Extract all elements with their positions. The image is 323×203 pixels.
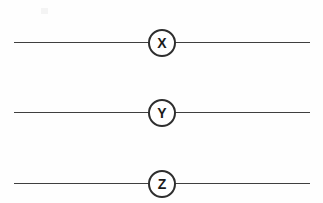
node-label-z: Z	[158, 177, 167, 191]
diagram-row-z: Z	[0, 169, 323, 199]
diagram-row-y: Y	[0, 98, 323, 128]
node-label-y: Y	[157, 106, 166, 120]
scan-artifact	[41, 8, 48, 14]
node-label-x: X	[157, 36, 166, 50]
node-circle-y[interactable]: Y	[148, 99, 176, 127]
node-circle-z[interactable]: Z	[148, 170, 176, 198]
node-circle-x[interactable]: X	[148, 29, 176, 57]
diagram-row-x: X	[0, 28, 323, 58]
diagram-canvas: X Y Z	[0, 0, 323, 203]
